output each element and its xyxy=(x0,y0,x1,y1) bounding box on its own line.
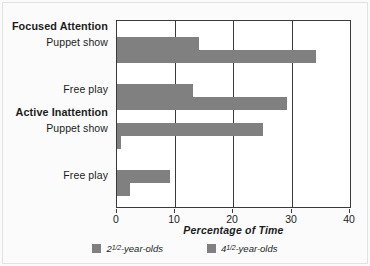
bar-active-puppet-2yo xyxy=(117,123,263,136)
category-label-free-play-focused: Free play xyxy=(63,83,108,95)
bar-active-freeplay-4yo xyxy=(117,183,130,196)
gridline-20 xyxy=(233,21,234,207)
category-label-puppet-show-focused: Puppet show xyxy=(46,36,108,48)
group-label-active-inattention: Active Inattention xyxy=(16,106,108,118)
x-axis-title: Percentage of Time xyxy=(116,224,351,236)
legend-suffix-2yo: -year-olds xyxy=(121,243,163,254)
x-axis-ticks: 0 10 20 30 40 xyxy=(116,209,351,225)
group-label-focused-attention: Focused Attention xyxy=(12,20,108,32)
plot-area xyxy=(116,20,351,208)
legend-swatch-icon-4yo xyxy=(207,244,216,253)
bar-focused-puppet-2yo xyxy=(117,37,199,50)
category-label-column: Focused Attention Puppet show Free play … xyxy=(0,20,112,208)
category-label-puppet-show-active: Puppet show xyxy=(46,122,108,134)
legend-suffix-4yo: -year-olds xyxy=(235,243,277,254)
chart-legend: 21/2-year-olds 41/2-year-olds xyxy=(0,243,370,254)
bar-focused-puppet-4yo xyxy=(117,50,316,63)
legend-item-4-year-olds: 41/2-year-olds xyxy=(207,243,278,254)
legend-label-2yo: 21/2-year-olds xyxy=(106,243,163,254)
category-label-free-play-active: Free play xyxy=(63,169,108,181)
bar-focused-freeplay-2yo xyxy=(117,84,193,97)
bar-focused-freeplay-4yo xyxy=(117,97,287,110)
bar-active-freeplay-2yo xyxy=(117,170,170,183)
legend-swatch-icon-2yo xyxy=(92,244,101,253)
bar-chart-figure: Focused Attention Puppet show Free play … xyxy=(0,0,370,266)
gridline-30 xyxy=(292,21,293,207)
bar-active-puppet-4yo xyxy=(117,136,121,149)
legend-item-2-year-olds: 21/2-year-olds xyxy=(92,243,163,254)
legend-label-4yo: 41/2-year-olds xyxy=(221,243,278,254)
legend-fraction-2yo: 1/2 xyxy=(112,244,121,251)
